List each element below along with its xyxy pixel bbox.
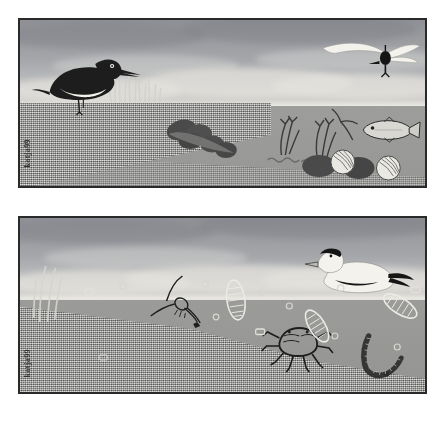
eider-duck-icon [305,249,414,293]
bivalve-shells-icon [85,287,420,360]
razor-shell-3-icon [380,289,420,323]
signature-bottom: katja99 [23,349,32,378]
fish-icon [364,117,420,142]
top-panel-artwork [20,20,425,186]
drifting-weed-icon [332,109,358,140]
illustration-page: katja99 [0,0,445,423]
scene-top: katja99 [20,20,425,186]
scene-bottom: katja99 [20,218,425,392]
oystercatcher-icon [32,60,141,116]
boulder-cluster-icon [165,117,237,158]
lugworm-icon [364,336,401,376]
shrimp-icon [151,276,201,328]
signature-top: katja99 [23,139,32,168]
panel-top-mudflat: katja99 [18,18,427,188]
shore-crab-icon [262,328,333,372]
razor-shell-1-icon [224,279,247,321]
bottom-panel-artwork [20,218,425,392]
bubbles-icon [120,281,400,392]
seaweed-wrack-left-icon [280,116,299,155]
seaweed-wrack-right-icon [315,118,336,158]
saltmarsh-grass-icon [109,75,160,102]
panel-bottom-submerged: katja99 [18,216,427,394]
gull-in-flight-icon [323,43,420,77]
reed-stems-icon [34,266,64,322]
